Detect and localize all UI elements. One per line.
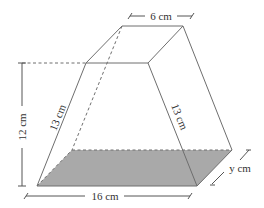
height-label: 12 cm [16, 113, 28, 141]
back-right-slant-edge [183, 26, 232, 150]
prism-diagram: 12 cm 6 cm 16 cm y cm 13 cm 13 cm [0, 0, 264, 208]
top-width-label: 6 cm [150, 10, 172, 22]
base-width-label: 16 cm [91, 190, 119, 202]
top-left-edge [86, 26, 122, 63]
top-right-edge [148, 26, 183, 63]
height-dimension: 12 cm [16, 63, 28, 186]
top-width-dimension: 6 cm [128, 10, 194, 22]
base-width-dimension: 16 cm [24, 190, 192, 202]
back-left-slant-edge-hidden [72, 26, 122, 150]
right-slant-label: 13 cm [169, 102, 190, 132]
base-depth-label: y cm [229, 162, 251, 174]
